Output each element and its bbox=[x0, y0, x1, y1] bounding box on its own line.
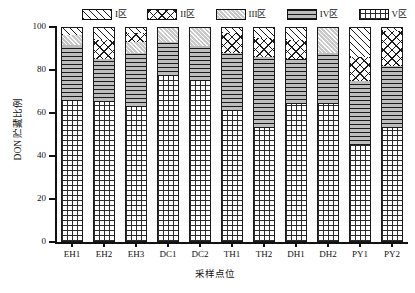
bar-segment[interactable] bbox=[349, 145, 371, 242]
bar-segment[interactable] bbox=[317, 104, 339, 242]
legend-label-3: III区 bbox=[249, 9, 267, 20]
bar-segment[interactable] bbox=[61, 35, 83, 46]
bar-segment[interactable] bbox=[157, 42, 179, 76]
bar-segment[interactable] bbox=[61, 27, 83, 35]
legend-item-1[interactable]: I区 bbox=[82, 9, 127, 20]
legend-label-2: II区 bbox=[180, 9, 195, 20]
bar-segment[interactable] bbox=[61, 101, 83, 242]
legend-swatch-icon-1 bbox=[82, 9, 112, 20]
x-tick-mark bbox=[359, 242, 361, 247]
bar-segment[interactable] bbox=[253, 57, 275, 128]
legend-label-5: V区 bbox=[392, 9, 408, 20]
bar-segment[interactable] bbox=[189, 46, 211, 80]
legend-swatch-icon-4 bbox=[287, 9, 317, 20]
y-tick-label: 0 bbox=[20, 236, 46, 246]
x-tick-mark bbox=[231, 242, 233, 247]
bar-segment[interactable] bbox=[253, 27, 275, 38]
x-tick-mark bbox=[327, 242, 329, 247]
bar-stack[interactable] bbox=[189, 27, 211, 242]
x-tick-mark bbox=[103, 242, 105, 247]
bar-segment[interactable] bbox=[157, 27, 179, 42]
bar-segment[interactable] bbox=[349, 27, 371, 57]
bar-segment[interactable] bbox=[381, 31, 403, 65]
bar-stack[interactable] bbox=[125, 27, 147, 242]
bar-segment[interactable] bbox=[157, 76, 179, 242]
bar-segment[interactable] bbox=[285, 27, 307, 40]
bar-stack[interactable] bbox=[157, 27, 179, 242]
bar-segment[interactable] bbox=[125, 107, 147, 242]
bar-segment[interactable] bbox=[317, 53, 339, 105]
legend-swatch-icon-5 bbox=[359, 9, 389, 20]
y-tick-mark bbox=[49, 112, 56, 114]
bar-segment[interactable] bbox=[125, 42, 147, 53]
y-axis-title: DON 贮藏比例 bbox=[10, 59, 24, 199]
x-tick-mark bbox=[167, 242, 169, 247]
bar-segment[interactable] bbox=[285, 59, 307, 104]
chart-root: I区 II区 III区 IV区 V区 020406080100 EH1EH2EH… bbox=[0, 0, 415, 293]
bar-segment[interactable] bbox=[381, 128, 403, 242]
bar-segment[interactable] bbox=[189, 27, 211, 46]
bar-stack[interactable] bbox=[61, 27, 83, 242]
legend-label-4: IV区 bbox=[320, 9, 339, 20]
legend-item-4[interactable]: IV区 bbox=[287, 9, 339, 20]
bar-segment[interactable] bbox=[61, 45, 83, 101]
bar-stack[interactable] bbox=[253, 27, 275, 242]
bar-segment[interactable] bbox=[93, 59, 115, 102]
bar-segment[interactable] bbox=[221, 53, 243, 111]
x-tick-mark bbox=[295, 242, 297, 247]
bar-segment[interactable] bbox=[253, 128, 275, 242]
bar-stack[interactable] bbox=[381, 27, 403, 242]
legend-swatch-icon-3 bbox=[216, 9, 246, 20]
bar-segment[interactable] bbox=[189, 81, 211, 242]
bar-segment[interactable] bbox=[221, 111, 243, 242]
legend-label-1: I区 bbox=[115, 9, 127, 20]
bar-segment[interactable] bbox=[125, 53, 147, 107]
bar-stack[interactable] bbox=[221, 27, 243, 242]
bar-segment[interactable] bbox=[125, 33, 147, 42]
bar-stack[interactable] bbox=[285, 27, 307, 242]
bar-segment[interactable] bbox=[93, 40, 115, 59]
x-tick-mark bbox=[391, 242, 393, 247]
bar-segment[interactable] bbox=[381, 66, 403, 128]
chart-legend: I区 II区 III区 IV区 V区 bbox=[82, 6, 407, 22]
bar-stack[interactable] bbox=[317, 27, 339, 242]
bar-stack[interactable] bbox=[93, 27, 115, 242]
y-tick-label: 100 bbox=[20, 21, 46, 31]
y-tick-mark bbox=[49, 26, 56, 28]
bar-segment[interactable] bbox=[93, 102, 115, 242]
x-axis-title: 采样点位 bbox=[155, 266, 275, 280]
x-tick-mark bbox=[71, 242, 73, 247]
bar-stack[interactable] bbox=[349, 27, 371, 242]
bar-segment[interactable] bbox=[253, 38, 275, 57]
x-tick-mark bbox=[135, 242, 137, 247]
x-tick-mark bbox=[263, 242, 265, 247]
y-tick-mark bbox=[49, 198, 56, 200]
x-tick-mark bbox=[199, 242, 201, 247]
bar-segment[interactable] bbox=[317, 27, 339, 53]
bar-segment[interactable] bbox=[349, 81, 371, 146]
legend-item-5[interactable]: V区 bbox=[359, 9, 408, 20]
legend-item-3[interactable]: III区 bbox=[216, 9, 267, 20]
bar-segment[interactable] bbox=[349, 57, 371, 81]
legend-swatch-icon-2 bbox=[147, 9, 177, 20]
legend-item-2[interactable]: II区 bbox=[147, 9, 195, 20]
bar-segment[interactable] bbox=[285, 104, 307, 242]
plot-area bbox=[56, 27, 408, 242]
y-tick-mark bbox=[49, 69, 56, 71]
y-tick-mark bbox=[49, 155, 56, 157]
x-tick-label-py2: PY2 bbox=[369, 249, 415, 259]
bar-segment[interactable] bbox=[221, 33, 243, 52]
bar-segment[interactable] bbox=[93, 27, 115, 40]
bar-segment[interactable] bbox=[285, 40, 307, 59]
y-tick-mark bbox=[49, 241, 56, 243]
